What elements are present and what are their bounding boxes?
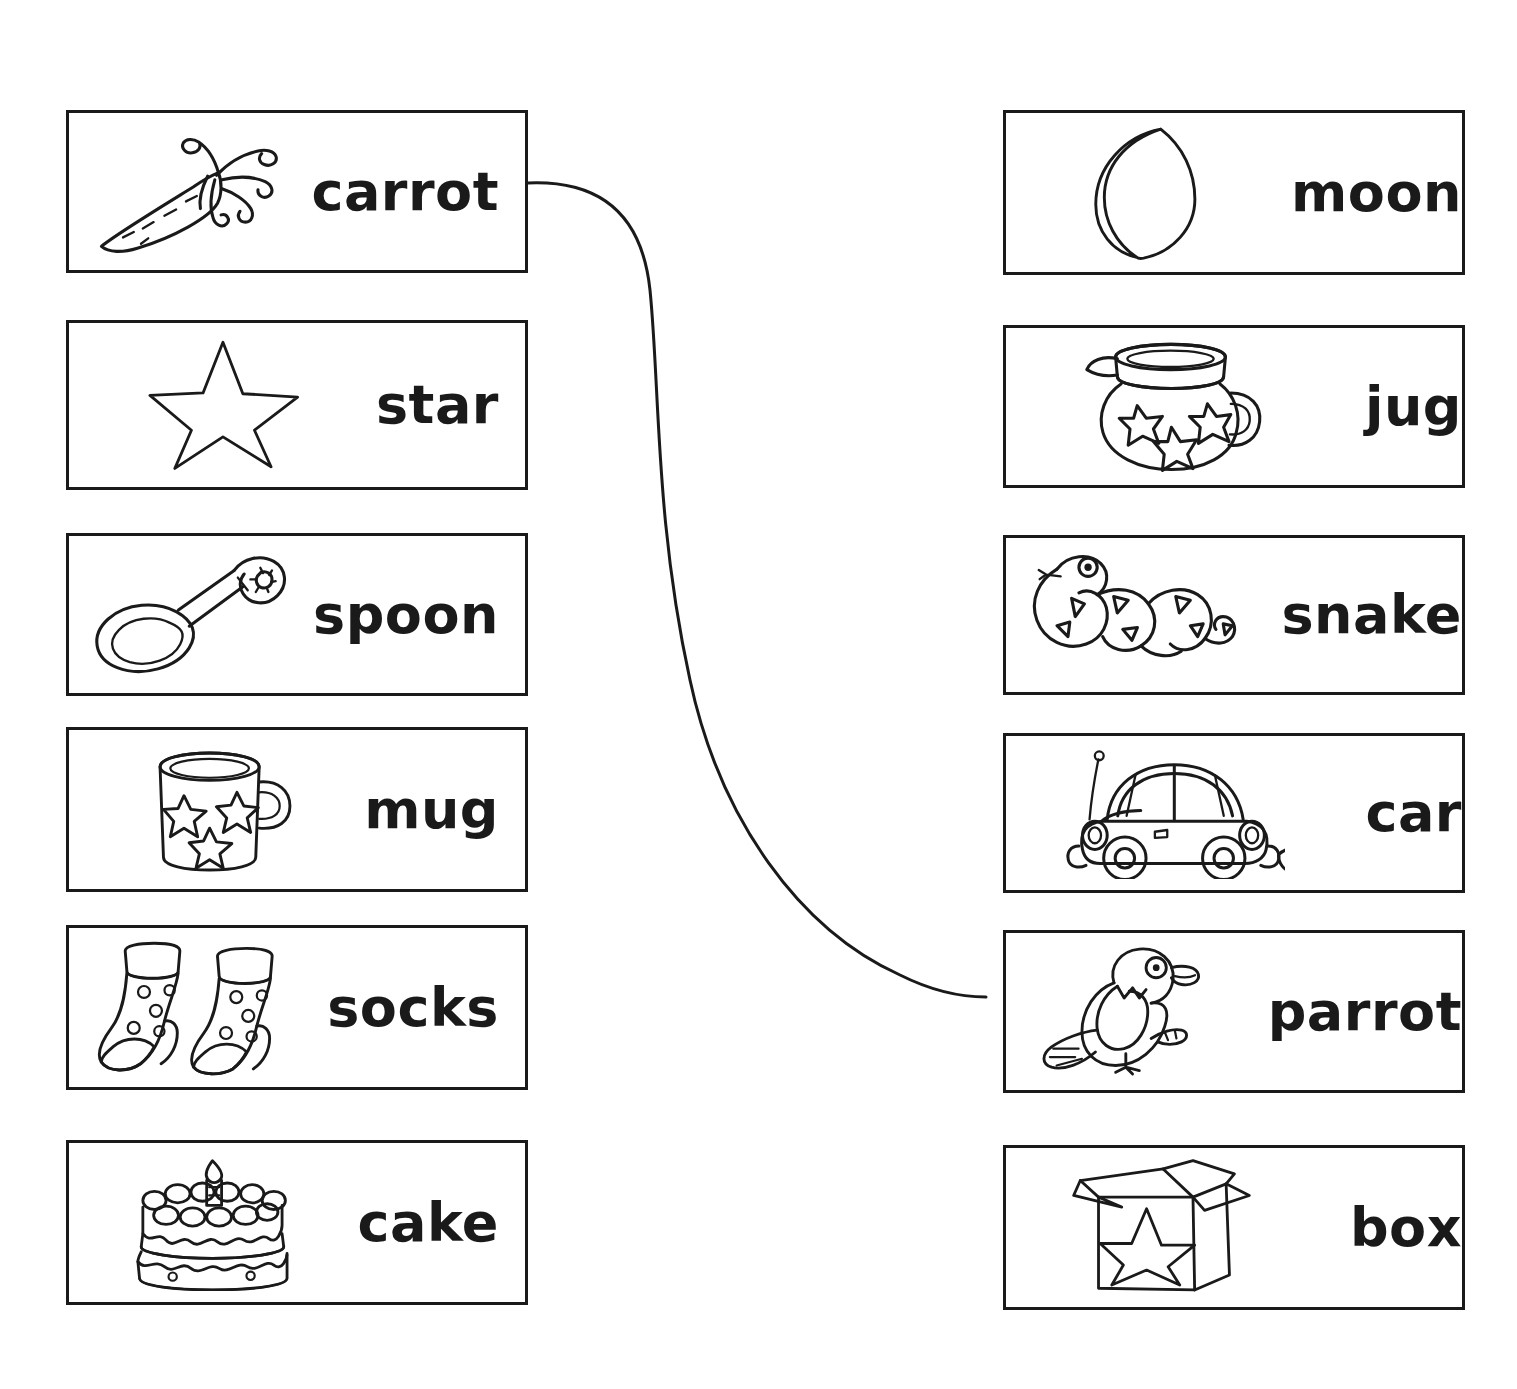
star-icon [69, 323, 376, 487]
word-card-snake[interactable]: snake [1003, 535, 1465, 695]
word-label-moon: moon [1261, 166, 1462, 220]
carrot-icon [69, 113, 311, 270]
moon-icon [1006, 113, 1261, 272]
word-card-mug[interactable]: mug [66, 727, 528, 892]
word-label-jug: jug [1335, 380, 1462, 434]
word-label-box: box [1320, 1201, 1462, 1255]
word-label-star: star [376, 378, 525, 432]
snake-icon [1006, 538, 1251, 692]
word-card-socks[interactable]: socks [66, 925, 528, 1090]
match-line-carrot-parrot [528, 183, 986, 997]
worksheet-canvas: carrot star [0, 0, 1517, 1389]
jug-icon [1006, 328, 1335, 485]
mug-icon [69, 730, 364, 889]
word-card-jug[interactable]: jug [1003, 325, 1465, 488]
word-card-carrot[interactable]: carrot [66, 110, 528, 273]
word-label-carrot: carrot [311, 165, 525, 219]
box-icon [1006, 1148, 1320, 1307]
word-card-car[interactable]: car [1003, 733, 1465, 893]
spoon-icon [69, 536, 313, 693]
socks-icon [69, 928, 327, 1087]
word-label-socks: socks [327, 981, 525, 1035]
word-card-moon[interactable]: moon [1003, 110, 1465, 275]
word-label-parrot: parrot [1238, 985, 1462, 1039]
word-card-box[interactable]: box [1003, 1145, 1465, 1310]
word-label-snake: snake [1251, 588, 1462, 642]
word-card-spoon[interactable]: spoon [66, 533, 528, 696]
word-label-mug: mug [364, 783, 525, 837]
parrot-icon [1006, 933, 1238, 1090]
car-icon [1006, 736, 1335, 890]
word-label-car: car [1335, 786, 1462, 840]
word-label-spoon: spoon [313, 588, 525, 642]
word-card-star[interactable]: star [66, 320, 528, 490]
word-label-cake: cake [357, 1196, 525, 1250]
word-card-cake[interactable]: cake [66, 1140, 528, 1305]
word-card-parrot[interactable]: parrot [1003, 930, 1465, 1093]
cake-icon [69, 1143, 357, 1302]
